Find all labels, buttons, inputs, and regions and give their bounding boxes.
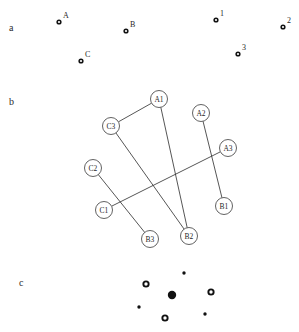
- figure-canvas: a b c ABC123 A1A2A3B1B2B3C1C2C3: [0, 0, 299, 332]
- marker-a-1-label: 1: [220, 9, 224, 18]
- node-C3-label: C3: [107, 122, 116, 131]
- node-A1-label: A1: [154, 95, 163, 104]
- marker-c-dot-1: [182, 271, 185, 274]
- marker-c-filled-1: [168, 291, 176, 299]
- marker-c-dot-2: [137, 305, 140, 308]
- panel-b-node-layer: A1A2A3B1B2B3C1C2C3: [85, 91, 237, 248]
- marker-a-C-hole: [80, 60, 82, 62]
- panel-a-scatter: ABC123: [56, 9, 291, 64]
- node-B1-label: B1: [220, 202, 229, 211]
- marker-a-1-hole: [215, 19, 217, 21]
- marker-a-A-label: A: [63, 11, 69, 20]
- edge-C3-A1: [118, 103, 151, 122]
- edge-A3-C1: [112, 152, 221, 206]
- node-C1-label: C1: [100, 206, 109, 215]
- marker-a-A-hole: [58, 21, 60, 23]
- node-A2-label: A2: [196, 109, 205, 118]
- node-C2-label: C2: [89, 164, 98, 173]
- edge-A1-B2: [161, 107, 187, 227]
- marker-c-ring-1-hole: [144, 282, 147, 285]
- figure-svg: ABC123 A1A2A3B1B2B3C1C2C3: [0, 0, 299, 332]
- marker-a-2-label: 2: [287, 16, 291, 25]
- marker-c-dot-3: [203, 312, 206, 315]
- marker-a-B-label: B: [130, 20, 135, 29]
- panel-c-scatter: [137, 271, 214, 321]
- node-B3-label: B3: [146, 235, 155, 244]
- marker-a-3-label: 3: [242, 43, 246, 52]
- node-B2-label: B2: [185, 232, 194, 241]
- marker-a-C-label: C: [85, 50, 90, 59]
- marker-a-B-hole: [125, 30, 127, 32]
- marker-c-ring-2-hole: [209, 290, 212, 293]
- marker-c-ring-3-hole: [163, 316, 166, 319]
- edge-C3-B2: [116, 133, 184, 229]
- node-A3-label: A3: [223, 144, 232, 153]
- marker-a-2-hole: [282, 26, 284, 28]
- marker-a-3-hole: [237, 53, 239, 55]
